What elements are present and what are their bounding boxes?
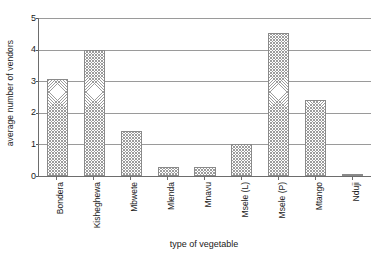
bar (84, 50, 105, 176)
x-axis-tick-mark (241, 177, 242, 180)
y-axis-tick-label: 0 (22, 172, 36, 181)
bar (231, 144, 252, 176)
bar-chart-figure: average number of vendors 012345 Bondera… (0, 0, 381, 261)
bar (121, 131, 142, 176)
x-axis-tick: Bondera (38, 177, 75, 239)
x-axis-tick-mark (56, 177, 57, 180)
y-axis-tick-label: 3 (22, 77, 36, 86)
x-axis-tick-label: Kisheghewa (93, 182, 102, 228)
x-axis-tick-label: Mnavu (204, 182, 213, 208)
x-axis-tick-labels: BonderaKisheghewaMbweteMlendaMnavuMsele … (38, 177, 370, 239)
x-axis-tick-mark (167, 177, 168, 180)
y-axis-tick-labels: 012345 (20, 12, 38, 182)
x-axis-tick: Kisheghewa (75, 177, 112, 239)
bar (194, 167, 215, 176)
y-axis-title: average number of vendors (0, 0, 20, 185)
x-axis-tick-label: Msele (P) (278, 182, 287, 218)
y-axis-tick-label: 2 (22, 108, 36, 117)
x-axis-tick-label: Mtango (315, 182, 324, 210)
bar-series (39, 18, 371, 176)
bar (47, 79, 68, 176)
y-axis-tick-label: 5 (22, 14, 36, 23)
bar (305, 100, 326, 176)
y-axis-tick-label: 4 (22, 45, 36, 54)
bar (158, 167, 179, 176)
x-axis-tick: Msele (L) (222, 177, 259, 239)
x-axis-title: type of vegetable (38, 239, 370, 249)
x-axis-tick: Mnavu (186, 177, 223, 239)
x-axis-tick: Msele (P) (259, 177, 296, 239)
x-axis-tick-label: Msele (L) (241, 182, 250, 217)
x-axis-tick-mark (204, 177, 205, 180)
x-axis-tick-label: Nduji (352, 182, 361, 201)
bar (268, 33, 289, 176)
x-axis-tick-mark (130, 177, 131, 180)
x-axis-tick-label: Mlenda (167, 182, 176, 210)
x-axis-tick-mark (278, 177, 279, 180)
y-axis-tick-label: 1 (22, 140, 36, 149)
bar (342, 174, 363, 176)
x-axis-tick: Nduji (333, 177, 370, 239)
x-axis-tick-mark (315, 177, 316, 180)
x-axis-tick-label: Mbwete (130, 182, 139, 212)
x-axis-tick-mark (93, 177, 94, 180)
x-axis-tick: Mlenda (149, 177, 186, 239)
y-axis-title-text: average number of vendors (5, 39, 15, 145)
x-axis-tick: Mtango (296, 177, 333, 239)
plot-area (38, 18, 371, 177)
x-axis-tick-mark (352, 177, 353, 180)
x-axis-tick-label: Bondera (56, 182, 65, 214)
x-axis-tick: Mbwete (112, 177, 149, 239)
